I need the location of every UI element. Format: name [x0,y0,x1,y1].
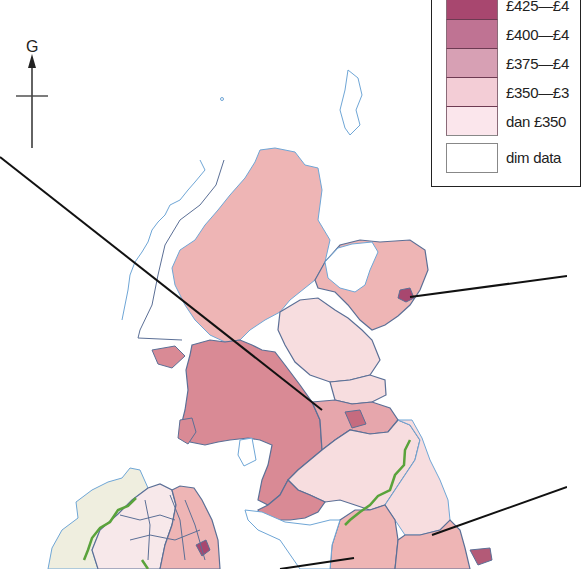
compass: G [14,38,50,153]
legend-swatch [446,0,498,20]
legend-label: £425—£4 [506,0,569,14]
region-arran [238,438,256,466]
legend-item-400: £400—£4 [446,20,569,49]
legend-swatch [446,107,498,136]
leader-line-aberdeen [410,276,567,297]
legend-swatch [446,20,498,49]
legend-item-425: £425—£4 [446,0,569,20]
legend-item-no-data: dim data [446,143,561,172]
region-mull [152,346,185,368]
legend-label: dan £350 [506,113,566,130]
legend-swatch [446,78,498,107]
island-dot [221,98,224,101]
legend-label: £375—£4 [506,55,569,72]
legend-swatch [446,143,498,173]
northern-isles [340,70,362,135]
legend-label: £350—£3 [506,84,569,101]
legend-label: dim data [506,149,561,166]
region-teesside [470,548,492,565]
leader-line-durham [432,487,567,535]
legend-item-350: £350—£3 [446,78,569,107]
legend-label: £400—£4 [506,26,569,43]
legend: £425—£4 £400—£4 £375—£4 £350—£3 dan £350… [431,0,581,187]
north-arrow-icon [14,38,50,153]
legend-swatch [446,49,498,78]
legend-item-below-350: dan £350 [446,107,566,136]
legend-item-375: £375—£4 [446,49,569,78]
